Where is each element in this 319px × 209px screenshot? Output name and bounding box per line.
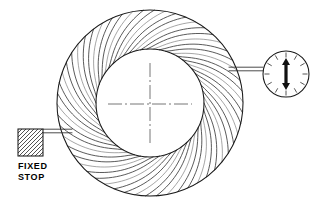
gauge-tick [300,63,304,66]
wheel-vane [89,29,97,97]
wheel-vane [104,155,165,184]
wheel-vane [204,109,212,177]
wheel-vane [105,12,133,74]
wheel-vane [171,53,237,70]
gauge-tick [267,63,271,66]
gauge-tick [294,88,297,92]
fixed-stop-label-line-1: FIXED [18,161,48,171]
diagram-canvas: FIXED STOP [0,0,319,209]
gauge-tick [300,82,304,85]
wheel-centerline-crosshair [108,63,192,145]
wheel-vane [118,11,165,59]
wheel-vane [73,155,141,162]
wheel-vane [63,136,129,153]
gauge-connector-rod [229,67,263,71]
wheel-vane [191,68,242,112]
double-headed-arrow-shape [282,58,290,90]
wheel-vane [114,153,171,189]
wheel-vane [129,17,186,53]
gauge-tick [294,55,297,59]
hatch-line [15,129,42,156]
wheel-vane [147,33,213,49]
wheel-vane [58,93,109,137]
turbine-wheel-schematic: FIXED STOP [0,0,319,209]
gauge-double-arrow-icon [282,58,290,90]
wheel-vane [182,60,242,91]
hatch-line [11,129,38,156]
gauge-tick [267,82,271,85]
hatch-line [0,129,18,156]
hatch-line [7,129,34,156]
wheel-vane [167,133,195,195]
fixed-stop-label-line-2: STOP [18,172,45,182]
wheel-vane [58,115,118,146]
wheel-vane [178,127,199,192]
gauge-tick [275,88,278,92]
wheel-vane [135,146,182,194]
wheel-vane [159,44,227,51]
wheel-vane [87,157,153,173]
hatch-line [19,129,46,156]
gauge-tick [275,55,278,59]
hatch-line [3,129,30,156]
wheel-vane [135,22,196,51]
wheel-vane [102,14,123,79]
hatch-line [0,129,26,156]
